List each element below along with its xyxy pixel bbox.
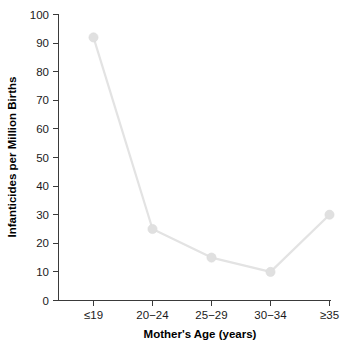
y-axis-ticks <box>53 15 59 301</box>
series-line <box>94 37 330 272</box>
y-tick-label-80: 80 <box>36 66 49 78</box>
x-axis-ticks <box>94 301 330 307</box>
y-tick-label-60: 60 <box>36 123 49 135</box>
x-tick-label-0: ≤19 <box>84 309 103 321</box>
y-tick-label-10: 10 <box>36 266 49 278</box>
data-point-0 <box>89 33 98 42</box>
y-tick-label-70: 70 <box>36 94 49 106</box>
y-tick-label-40: 40 <box>36 180 49 192</box>
y-tick-label-90: 90 <box>36 37 49 49</box>
x-tick-label-3: 30−34 <box>254 309 287 321</box>
chart-container: 100 90 80 70 60 50 40 30 20 10 0 ≤19 20−… <box>0 0 359 343</box>
y-tick-label-100: 100 <box>30 9 49 21</box>
x-tick-label-1: 20−24 <box>136 309 169 321</box>
x-tick-label-2: 25−29 <box>195 309 227 321</box>
x-tick-label-4: ≥35 <box>320 309 339 321</box>
data-point-4 <box>325 210 334 219</box>
y-axis-title: Infanticides per Million Births <box>6 76 18 237</box>
y-tick-label-0: 0 <box>43 295 49 307</box>
line-chart: 100 90 80 70 60 50 40 30 20 10 0 ≤19 20−… <box>0 0 359 343</box>
y-tick-label-30: 30 <box>36 209 49 221</box>
data-point-1 <box>148 224 157 233</box>
data-point-2 <box>207 253 216 262</box>
y-tick-label-20: 20 <box>36 237 49 249</box>
y-axis-tick-labels: 100 90 80 70 60 50 40 30 20 10 0 <box>30 9 49 307</box>
data-series-infanticides <box>89 33 334 277</box>
y-tick-label-50: 50 <box>36 152 49 164</box>
data-point-3 <box>266 267 275 276</box>
x-axis-tick-labels: ≤19 20−24 25−29 30−34 ≥35 <box>84 309 339 321</box>
x-axis-title: Mother's Age (years) <box>144 328 257 340</box>
